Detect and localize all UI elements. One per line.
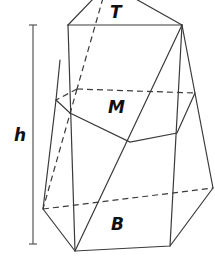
- lateral-edges: [43, 25, 213, 251]
- hidden-midsection-left-edge: [56, 89, 77, 100]
- midsection: [56, 93, 195, 142]
- right-vertical-edge: [182, 25, 213, 188]
- top-left-edge: [68, 0, 94, 25]
- hidden-base-back-edge: [43, 188, 213, 209]
- label-height: h: [14, 125, 26, 145]
- top-face: [68, 0, 182, 25]
- label-middle: M: [108, 97, 125, 117]
- height-dimension: [29, 25, 37, 244]
- lower-left-edge: [43, 100, 56, 209]
- midsection-front-outline: [56, 93, 195, 142]
- prismatoid-diagram: T M B h: [0, 0, 215, 256]
- label-base: B: [111, 214, 124, 234]
- hidden-midsection-back-edge: [77, 89, 195, 93]
- front-right-vertical-edge: [170, 25, 182, 246]
- base-face: [43, 188, 213, 251]
- hidden-back-vertical-edge: [77, 0, 103, 89]
- upper-left-edge: [56, 60, 60, 100]
- top-right-edge: [134, 0, 182, 25]
- label-top: T: [110, 2, 123, 22]
- front-left-vertical-edge: [68, 25, 75, 251]
- diagonal-edge: [75, 25, 182, 251]
- base-front-outline: [43, 188, 213, 251]
